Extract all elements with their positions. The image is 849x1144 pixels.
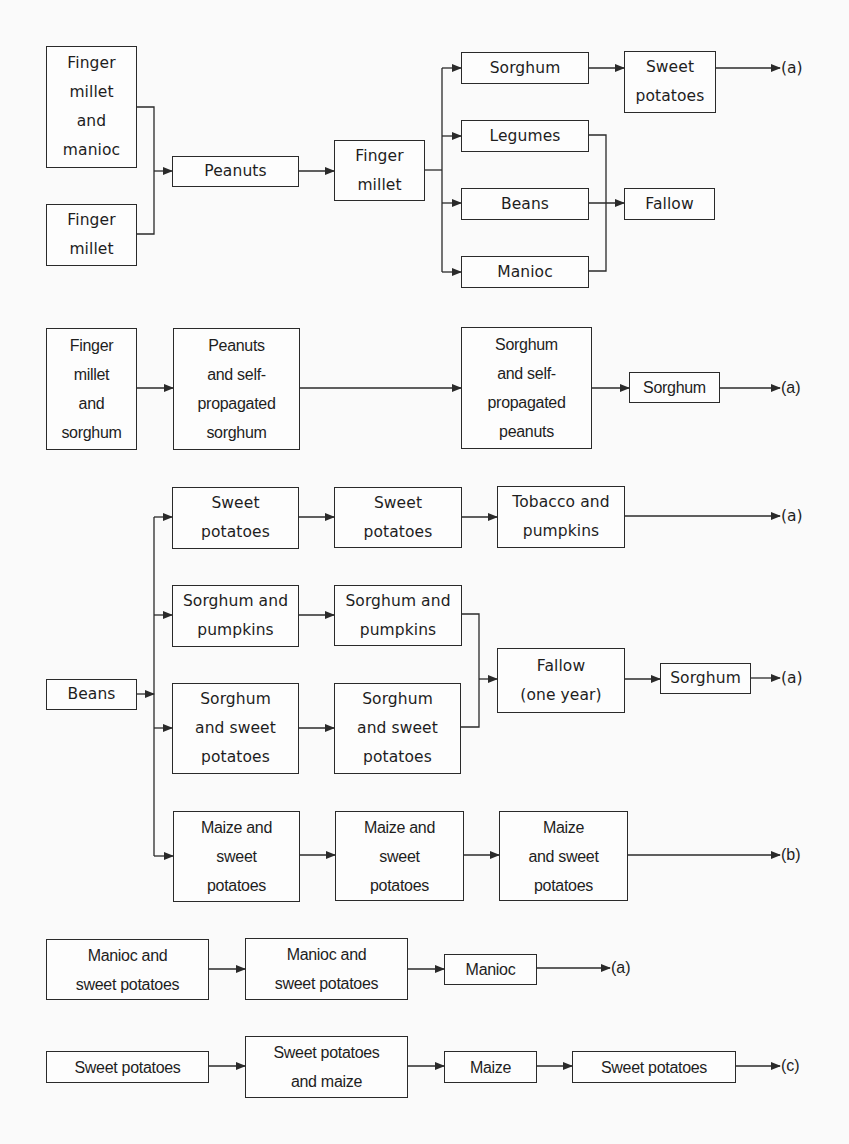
node-maize: Maize (444, 1051, 537, 1083)
node-finger-millet-and-sorghum: Finger millet and sorghum (46, 328, 137, 450)
node-manioc: Manioc (444, 954, 537, 985)
terminal-b: (b) (781, 846, 801, 864)
terminal-a: (a) (781, 59, 803, 77)
node-sorghum: Sorghum (461, 52, 589, 84)
node-sweet-potatoes: Sweet potatoes (624, 51, 716, 113)
node-peanuts: Peanuts (172, 156, 299, 187)
node-sweet-potatoes: Sweet potatoes (46, 1051, 209, 1083)
node-sweet-potatoes-and-maize: Sweet potatoes and maize (245, 1036, 408, 1098)
node-sweet-potatoes: Sweet potatoes (334, 487, 462, 548)
node-maize-and-sweet-potatoes: Maize and sweet potatoes (335, 811, 464, 901)
node-maize-and-sweet-potatoes: Maize and sweet potatoes (173, 811, 300, 902)
node-manioc-and-sweet-potatoes: Manioc and sweet potatoes (46, 939, 209, 1000)
node-sorghum-and-pumpkins: Sorghum and pumpkins (334, 585, 462, 646)
node-fallow: Fallow (624, 188, 715, 220)
node-legumes: Legumes (461, 120, 589, 152)
node-manioc: Manioc (461, 256, 589, 288)
node-sorghum-and-self-propagated-peanuts: Sorghum and self- propagated peanuts (461, 327, 592, 449)
node-finger-millet-and-manioc: Finger millet and manioc (46, 46, 137, 168)
node-sorghum: Sorghum (629, 372, 720, 403)
node-finger-millet: Finger millet (46, 204, 137, 266)
terminal-a: (a) (781, 669, 803, 687)
terminal-a: (a) (781, 507, 803, 525)
node-beans: Beans (46, 679, 137, 710)
node-fallow-one-year: Fallow (one year) (497, 648, 625, 713)
node-sorghum-and-sweet-potatoes: Sorghum and sweet potatoes (172, 683, 299, 774)
terminal-a: (a) (611, 959, 631, 977)
crop-rotation-diagram: Finger millet and manioc Finger millet P… (0, 0, 849, 1144)
terminal-c: (c) (781, 1057, 800, 1075)
node-manioc-and-sweet-potatoes: Manioc and sweet potatoes (245, 938, 408, 1000)
node-maize-and-sweet-potatoes: Maize and sweet potatoes (499, 811, 628, 901)
node-sweet-potatoes: Sweet potatoes (172, 487, 299, 549)
node-beans: Beans (461, 188, 589, 220)
node-sorghum-and-sweet-potatoes: Sorghum and sweet potatoes (334, 683, 461, 774)
terminal-a: (a) (781, 379, 801, 397)
node-tobacco-and-pumpkins: Tobacco and pumpkins (497, 486, 625, 548)
node-sweet-potatoes: Sweet potatoes (572, 1051, 736, 1083)
node-peanuts-and-self-propagated-sorghum: Peanuts and self- propagated sorghum (173, 328, 300, 450)
node-finger-millet: Finger millet (334, 140, 425, 201)
node-sorghum-and-pumpkins: Sorghum and pumpkins (172, 585, 299, 647)
node-sorghum: Sorghum (660, 663, 751, 694)
